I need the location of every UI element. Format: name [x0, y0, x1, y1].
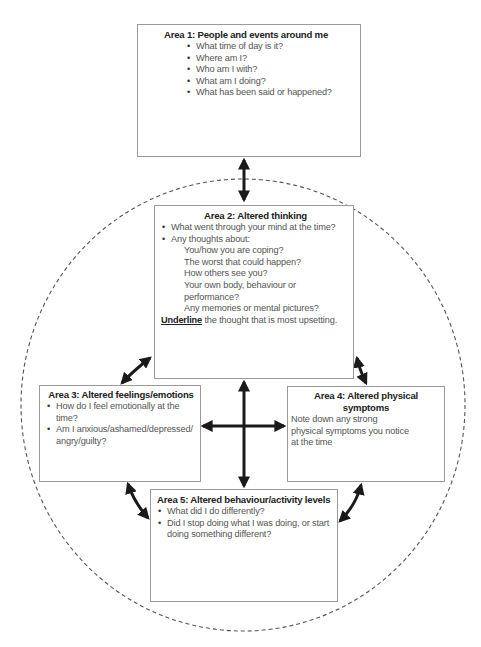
area2-list: What went through your mind at the time?…	[161, 222, 350, 245]
arrow-area2-area3	[122, 358, 150, 383]
list-item: Where am I?	[186, 53, 354, 65]
instruction-text: the thought that is most upsetting.	[202, 315, 337, 325]
sub-item: How others see you?	[161, 268, 350, 280]
arrow-area3-area5	[128, 484, 148, 518]
area1-list: What time of day is it? Where am I? Who …	[186, 41, 354, 99]
area3-box: Area 3: Altered feelings/emotions How do…	[39, 385, 201, 482]
list-item: What has been said or happened?	[186, 87, 354, 99]
area1-title: Area 1: People and events around me	[138, 29, 354, 41]
area5-list: What did I do differently? Did I stop do…	[157, 506, 331, 541]
area4-box: Area 4: Altered physical symptoms Note d…	[287, 386, 445, 482]
area4-note: Note down any strong physical symptoms y…	[291, 414, 441, 449]
area1-box: Area 1: People and events around me What…	[137, 24, 361, 157]
sub-item: Your own body, behaviour or performance?	[161, 280, 350, 303]
area5-title: Area 5: Altered behaviour/activity level…	[157, 494, 331, 506]
area3-title: Area 3: Altered feelings/emotions	[46, 389, 196, 401]
sub-item: You/how you are coping?	[161, 245, 350, 257]
list-item: Am I anxious/ashamed/depressed/ angry/gu…	[46, 424, 196, 447]
list-item: What went through your mind at the time?	[161, 222, 350, 234]
sub-item: Any memories or mental pictures?	[161, 303, 350, 315]
area3-list: How do I feel emotionally at the time? A…	[46, 401, 196, 447]
list-item: Who am I with?	[186, 64, 354, 76]
list-item: Did I stop doing what I was doing, or st…	[157, 518, 331, 541]
list-item: What time of day is it?	[186, 41, 354, 53]
area5-box: Area 5: Altered behaviour/activity level…	[150, 489, 338, 602]
area2-instruction: Underline the thought that is most upset…	[161, 315, 350, 327]
list-item: How do I feel emotionally at the time?	[46, 401, 196, 424]
sub-item: The worst that could happen?	[161, 257, 350, 269]
area4-title: Area 4: Altered physical symptoms	[291, 390, 441, 414]
list-item: What did I do differently?	[157, 506, 331, 518]
area2-box: Area 2: Altered thinking What went throu…	[154, 205, 354, 379]
underline-emphasis: Underline	[161, 315, 202, 325]
arrow-area2-area4	[357, 358, 366, 383]
list-item: Any thoughts about:	[161, 234, 350, 246]
list-item: What am I doing?	[186, 76, 354, 88]
arrow-area4-area5	[340, 485, 361, 521]
area2-title: Area 2: Altered thinking	[161, 210, 350, 222]
